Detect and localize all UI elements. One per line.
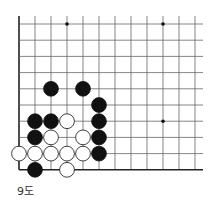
star-point: [161, 119, 165, 123]
black-stone: [28, 114, 43, 129]
white-stone: [60, 114, 75, 129]
black-stone: [28, 162, 43, 177]
black-stone: [44, 81, 59, 96]
black-stone: [76, 81, 91, 96]
white-stone: [12, 146, 27, 161]
go-board: [0, 0, 217, 209]
black-stone: [44, 114, 59, 129]
black-stone: [92, 130, 107, 145]
white-stone: [44, 146, 59, 161]
star-point: [65, 22, 69, 26]
star-point: [161, 22, 165, 26]
white-stone: [28, 146, 43, 161]
white-stone: [44, 130, 59, 145]
white-stone: [60, 146, 75, 161]
black-stone: [92, 146, 107, 161]
white-stone: [76, 130, 91, 145]
black-stone: [92, 114, 107, 129]
white-stone: [76, 146, 91, 161]
black-stone: [28, 130, 43, 145]
white-stone: [60, 162, 75, 177]
black-stone: [92, 98, 107, 113]
diagram-caption: 9도: [17, 182, 34, 198]
